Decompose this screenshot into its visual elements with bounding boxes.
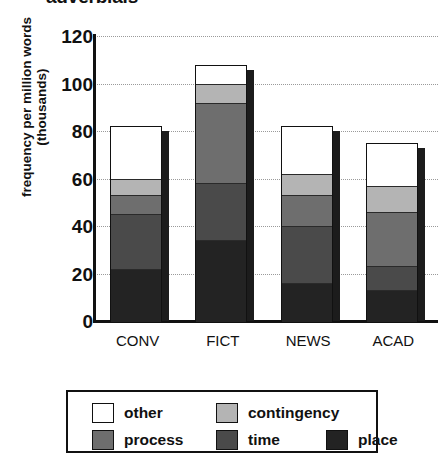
y-axis-tick-list: 120100806040200 bbox=[43, 36, 93, 321]
x-axis-tick-fict: FICT bbox=[190, 332, 256, 349]
bar-segment-contingency[interactable] bbox=[196, 85, 246, 104]
stacked-bar-acad[interactable] bbox=[366, 143, 418, 321]
y-axis-tick: 80 bbox=[47, 122, 93, 141]
bar-segment-contingency[interactable] bbox=[367, 187, 417, 213]
bar-segment-process[interactable] bbox=[111, 196, 161, 215]
y-axis-tick: 120 bbox=[47, 27, 93, 46]
x-axis-tick-conv: CONV bbox=[105, 332, 171, 349]
legend-swatch-other bbox=[92, 403, 114, 423]
bar-segment-place[interactable] bbox=[196, 241, 246, 322]
legend-row: othercontingency bbox=[68, 399, 376, 426]
bar-segment-place[interactable] bbox=[111, 270, 161, 322]
plot-area: CONVFICTNEWSACAD bbox=[97, 36, 438, 321]
bar-shadow bbox=[247, 70, 254, 322]
gridline bbox=[97, 36, 438, 37]
x-axis-tick-news: NEWS bbox=[275, 332, 341, 349]
bar-segment-time[interactable] bbox=[111, 215, 161, 270]
bar-segment-other[interactable] bbox=[111, 127, 161, 179]
legend-row: processtimeplace bbox=[68, 426, 376, 453]
bar-segment-other[interactable] bbox=[196, 66, 246, 85]
y-axis-tick: 20 bbox=[47, 265, 93, 284]
legend-label: other bbox=[124, 404, 163, 422]
bar-segment-other[interactable] bbox=[282, 127, 332, 175]
bar-segment-contingency[interactable] bbox=[111, 180, 161, 197]
bar-segment-process[interactable] bbox=[367, 213, 417, 268]
bar-segment-time[interactable] bbox=[196, 184, 246, 241]
y-axis-line bbox=[93, 34, 96, 322]
bar-shadow bbox=[162, 131, 169, 321]
bar-segment-time[interactable] bbox=[367, 267, 417, 291]
y-axis-tick: 60 bbox=[47, 170, 93, 189]
bar-segment-contingency[interactable] bbox=[282, 175, 332, 196]
bar-shadow bbox=[418, 148, 425, 321]
stacked-bar-fict[interactable] bbox=[195, 65, 247, 322]
bar-shadow bbox=[333, 131, 340, 321]
bar-segment-time[interactable] bbox=[282, 227, 332, 284]
bar-segment-process[interactable] bbox=[196, 104, 246, 185]
bar-segment-place[interactable] bbox=[282, 284, 332, 322]
legend-swatch-place bbox=[326, 430, 348, 450]
legend-item-other[interactable]: other bbox=[92, 403, 163, 423]
legend-item-time[interactable]: time bbox=[216, 430, 280, 450]
legend-item-contingency[interactable]: contingency bbox=[216, 403, 339, 423]
legend-label: time bbox=[248, 431, 280, 449]
legend-item-place[interactable]: place bbox=[326, 430, 398, 450]
legend-label: process bbox=[124, 431, 183, 449]
legend-item-process[interactable]: process bbox=[92, 430, 183, 450]
y-axis-tick: 0 bbox=[47, 312, 93, 331]
legend-label: place bbox=[358, 431, 398, 449]
stacked-bar-news[interactable] bbox=[281, 126, 333, 321]
bar-segment-place[interactable] bbox=[367, 291, 417, 322]
page-title: adverbials bbox=[46, 0, 138, 8]
stacked-bar-conv[interactable] bbox=[110, 126, 162, 321]
legend-label: contingency bbox=[248, 404, 339, 422]
x-axis-tick-acad: ACAD bbox=[360, 332, 426, 349]
bar-segment-process[interactable] bbox=[282, 196, 332, 227]
y-axis-tick: 100 bbox=[47, 75, 93, 94]
bar-segment-other[interactable] bbox=[367, 144, 417, 187]
y-axis-tick: 40 bbox=[47, 217, 93, 236]
legend-swatch-contingency bbox=[216, 403, 238, 423]
legend: othercontingencyprocesstimeplace bbox=[66, 390, 378, 453]
legend-swatch-time bbox=[216, 430, 238, 450]
gridline bbox=[97, 84, 438, 85]
legend-swatch-process bbox=[92, 430, 114, 450]
